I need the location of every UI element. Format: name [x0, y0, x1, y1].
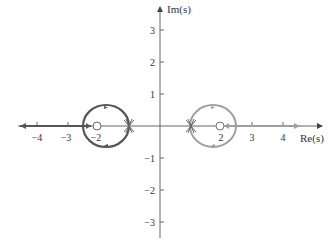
y-tick-label: 1	[150, 89, 155, 100]
x-tick-label: 2	[219, 132, 224, 143]
y-tick-label: 2	[150, 57, 155, 68]
y-axis-label: Im(s)	[167, 3, 191, 16]
x-tick-labels: −4 −3 −2 2 3 4	[32, 132, 286, 143]
y-tick-label: −1	[144, 153, 155, 164]
y-tick-label: −3	[144, 217, 155, 228]
x-tick-label: 4	[281, 132, 286, 143]
x-axis-label: Re(s)	[300, 132, 324, 145]
left-arrow-icon	[20, 123, 26, 129]
x-tick-label: 3	[250, 132, 255, 143]
zero-marker-right	[216, 122, 224, 130]
root-locus-diagram: −4 −3 −2 2 3 4 3 2 1 −1 −2 −3 Im(s) Re(s…	[0, 0, 334, 251]
arrow-to-zero-icon	[86, 123, 91, 129]
arrow-to-zero-icon	[224, 123, 229, 129]
right-arrow-icon	[294, 123, 300, 129]
x-tick-label: −2	[91, 132, 102, 143]
zero-marker-left	[93, 122, 101, 130]
x-tick-label: −4	[32, 132, 43, 143]
y-tick-label: 3	[150, 25, 155, 36]
x-tick-label: −3	[61, 132, 72, 143]
y-tick-label: −2	[144, 185, 155, 196]
